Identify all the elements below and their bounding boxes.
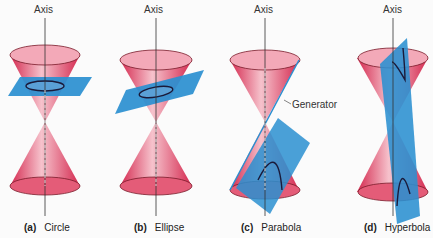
axis-label-b: Axis: [144, 4, 163, 15]
caption-b: (b)Ellipse: [134, 222, 184, 233]
cone-hyperbola: [357, 18, 428, 224]
axis-label-c: Axis: [254, 4, 273, 15]
generator-label: Generator: [292, 99, 337, 110]
cone-circle: [8, 18, 92, 216]
cone-parabola: [230, 18, 310, 216]
caption-c: (c)Parabola: [241, 222, 301, 233]
axis-label-a: Axis: [34, 4, 53, 15]
caption-a: (a)Circle: [24, 222, 70, 233]
axis-label-d: Axis: [383, 4, 402, 15]
caption-d: (d)Hyperbola: [364, 222, 430, 233]
conic-sections-diagram: [0, 0, 433, 238]
cone-ellipse: [115, 18, 204, 216]
